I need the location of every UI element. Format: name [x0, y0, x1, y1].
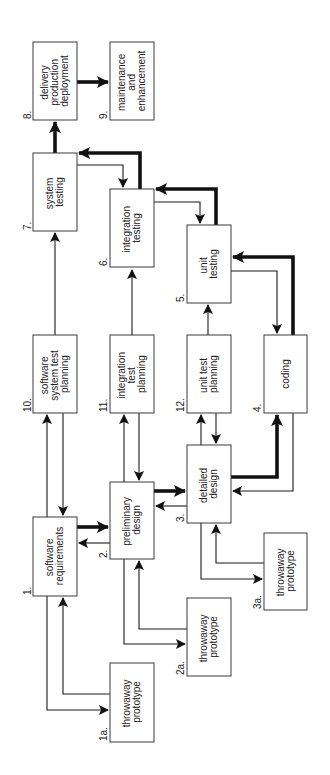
node-number: 7.: [22, 222, 33, 230]
node-number: 6.: [98, 258, 109, 266]
edge-3-to-4: [231, 415, 277, 477]
edge-1a-to-1: [63, 598, 110, 694]
node-detailed-design: detailed design 3.: [175, 445, 231, 523]
node-unit-testing: unit testing 5.: [175, 225, 231, 303]
node-label: system testing: [44, 175, 65, 209]
edge-5-to-4: [231, 271, 277, 333]
node-number: 1.: [22, 587, 33, 595]
node-integration-test-planning: integration test planning 11.: [98, 335, 154, 413]
edge-2-to-2a: [124, 559, 185, 644]
edge-2a-to-2: [139, 561, 187, 629]
software-lifecycle-diagram: delivery production deployment 8. mainte…: [0, 0, 330, 775]
node-software-requirements: software requirements 1.: [22, 517, 77, 596]
edge-6-to-7: [79, 153, 140, 189]
node-prototype-3a: throwaway prototype 3a.: [252, 533, 307, 610]
node-number: 9.: [98, 111, 109, 119]
node-label: delivery production deployment: [39, 55, 70, 107]
edge-6-to-5: [154, 202, 200, 223]
node-number: 10.: [22, 398, 33, 412]
node-number: 1a.: [98, 727, 109, 741]
node-number: 12.: [175, 398, 186, 412]
edge-4-to-5: [233, 257, 293, 335]
node-number: 3a.: [252, 595, 263, 609]
node-preliminary-design: preliminary design 2.: [98, 482, 154, 559]
node-label: throwaway prototype: [275, 546, 296, 597]
node-label: coding: [280, 359, 291, 388]
edge-5-to-6: [156, 189, 216, 225]
node-label: throwaway prototype: [198, 612, 219, 663]
node-prototype-1a: throwaway prototype 1a.: [98, 663, 154, 742]
connectors: [47, 82, 293, 710]
node-number: 4.: [252, 404, 263, 412]
node-number: 2.: [98, 550, 109, 558]
node-number: 2a.: [175, 661, 186, 675]
node-number: 3.: [175, 514, 186, 522]
node-label: detailed design: [198, 465, 219, 503]
edge-4-to-3: [233, 413, 293, 491]
node-label: software system test planning: [39, 347, 70, 400]
node-coding: coding 4.: [252, 335, 307, 413]
edge-1-to-1a: [47, 596, 108, 710]
edge-3a-to-3: [216, 525, 264, 563]
edge-3-to-3a: [201, 523, 262, 579]
node-number: 11.: [98, 399, 109, 412]
node-label: unit test planning: [198, 355, 219, 393]
node-delivery: delivery production deployment 8.: [22, 42, 77, 120]
node-system-test-planning: software system test planning 10.: [22, 335, 77, 413]
node-label: throwaway prototype: [121, 677, 142, 728]
node-unit-test-planning: unit test planning 12.: [175, 335, 231, 413]
node-integration-testing: integration testing 6.: [98, 189, 154, 267]
node-number: 8.: [22, 111, 33, 119]
node-number: 5.: [175, 294, 186, 302]
node-prototype-2a: throwaway prototype 2a.: [175, 598, 231, 676]
node-system-testing: system testing 7.: [22, 153, 77, 231]
edge-7-to-6: [77, 165, 123, 187]
